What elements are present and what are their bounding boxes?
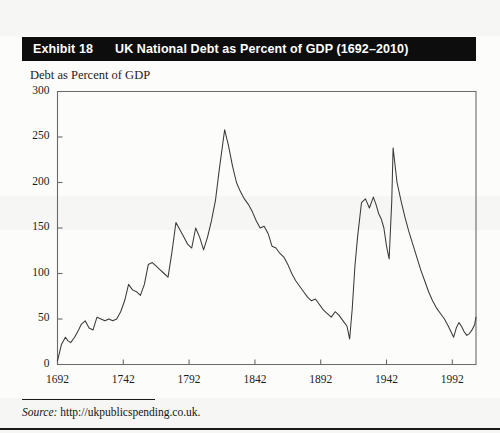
exhibit-page: Exhibit 18 UK National Debt as Percent o… (0, 0, 500, 433)
y-tick-label: 0 (16, 357, 50, 369)
y-tick-marks (58, 92, 63, 365)
x-tick-label: 1792 (166, 373, 212, 385)
page-bottom-rule (0, 428, 500, 430)
source-url: http://ukpublicspending.co.uk. (57, 406, 200, 418)
y-tick-label: 100 (16, 266, 50, 278)
x-tick-label: 1742 (100, 373, 146, 385)
debt-series-line (58, 130, 477, 361)
x-tick-marks (58, 360, 453, 365)
x-tick-label: 1942 (364, 373, 410, 385)
chart-svg (0, 0, 500, 433)
x-tick-label: 1892 (298, 373, 344, 385)
x-tick-label: 1842 (232, 373, 278, 385)
chart-plot-area: 050100150200250300 169217421792184218921… (0, 0, 500, 433)
y-tick-label: 300 (16, 84, 50, 96)
x-tick-label: 1692 (35, 373, 81, 385)
source-label: Source: (22, 406, 57, 418)
x-tick-label: 1992 (429, 373, 475, 385)
y-tick-label: 250 (16, 129, 50, 141)
y-tick-label: 50 (16, 311, 50, 323)
y-tick-label: 150 (16, 220, 50, 232)
y-tick-label: 200 (16, 175, 50, 187)
axis-group (58, 92, 477, 365)
axis-frame (58, 92, 477, 365)
source-note: Source: http://ukpublicspending.co.uk. (22, 406, 200, 418)
source-divider (22, 399, 155, 400)
